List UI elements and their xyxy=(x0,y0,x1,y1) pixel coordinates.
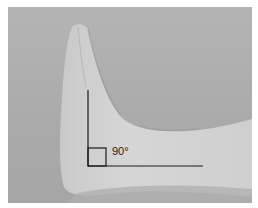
foot-illustration xyxy=(8,7,252,203)
foot-photograph xyxy=(8,7,252,203)
angle-label: 90° xyxy=(112,146,129,157)
foot-shape xyxy=(60,24,252,197)
